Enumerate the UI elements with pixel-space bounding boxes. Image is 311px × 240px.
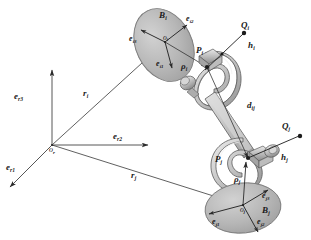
body-label-bj: Bj — [262, 206, 270, 215]
connecting-rod-assembly — [178, 49, 281, 193]
link-distance-label-dij: dij — [247, 101, 255, 110]
vector-label-rho-i: ρi — [181, 62, 187, 71]
vector-label-ri: ri — [83, 89, 88, 98]
diagram-vector-graphics — [0, 0, 311, 240]
frame-axis-label-ej3: ej3 — [262, 192, 269, 200]
joint-point-label-pj: Pj — [215, 155, 222, 164]
unit-vector-label-hj: hj — [281, 153, 288, 162]
figure-canvas: er3 er2 er1 or ri rj Bi oi ei2 ei3 ei1 P… — [0, 0, 311, 240]
frame-axis-label-ei1: ei1 — [156, 60, 163, 68]
global-origin-label: or — [49, 146, 55, 154]
body-center-label-oj: oj — [240, 206, 245, 214]
unit-vector-label-hi: hi — [248, 41, 255, 50]
axis-label-er1: er1 — [6, 163, 15, 172]
axis-point-label-qj: Qj — [282, 122, 290, 131]
vector-label-rj: rj — [131, 171, 136, 180]
axis-label-er3: er3 — [14, 92, 23, 101]
body-center-label-oi: oi — [163, 34, 168, 42]
joint-point-label-pi: Pi — [196, 46, 203, 55]
axis-label-er2: er2 — [113, 132, 122, 141]
global-reference-frame — [10, 70, 148, 187]
frame-axis-label-ej1: ej1 — [212, 218, 219, 226]
axis-point-label-qi: Qi — [241, 21, 249, 30]
vector-label-rho-j: ρj — [234, 175, 240, 184]
frame-axis-label-ei2: ei2 — [186, 15, 193, 23]
frame-axis-label-ei3: ei3 — [129, 35, 136, 43]
frame-axis-label-ej2: ej2 — [257, 218, 264, 226]
body-label-bi: Bi — [159, 11, 167, 20]
